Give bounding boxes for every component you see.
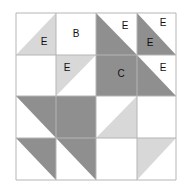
label-e: E bbox=[122, 20, 129, 31]
label-c: C bbox=[117, 68, 124, 79]
label-e: E bbox=[41, 36, 48, 47]
label-e: E bbox=[160, 17, 167, 28]
label-b: B bbox=[73, 28, 80, 39]
quilt-block-svg: E B E E E E C E bbox=[0, 0, 186, 189]
label-e: E bbox=[64, 62, 71, 73]
quilt-block-diagram: E B E E E E C E bbox=[0, 0, 186, 189]
label-e: E bbox=[147, 37, 154, 48]
square-dark-r3c2 bbox=[56, 96, 96, 138]
label-e: E bbox=[160, 62, 167, 73]
